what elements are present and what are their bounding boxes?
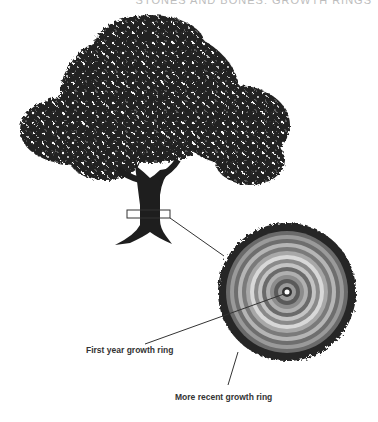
first-ring-label: First year growth ring	[86, 345, 173, 355]
recent-ring-label: More recent growth ring	[175, 392, 272, 402]
connector-line	[170, 218, 224, 256]
growth-ring-diagram	[0, 0, 378, 422]
trunk-cross-section	[218, 223, 356, 361]
recent-ring-pointer	[228, 352, 238, 385]
tree-canopy	[20, 15, 290, 185]
tree-trunk	[115, 160, 178, 245]
